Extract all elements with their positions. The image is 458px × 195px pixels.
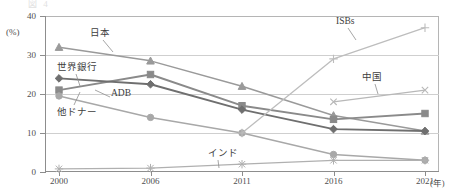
series-label-japan: 日本 (90, 28, 110, 38)
x-axis-tick-label: 2006 (131, 176, 171, 186)
y-axis-tick-label: 20 (8, 90, 36, 99)
series-label-adb: ADB (111, 88, 131, 98)
x-axis-tick-label: 2021 (405, 176, 445, 186)
plot-area (45, 16, 439, 172)
y-axis-tick-label: 0 (8, 168, 36, 177)
data-series-layer (45, 16, 439, 172)
series-インド (55, 156, 429, 173)
series-label-world-bank: 世界銀行 (57, 62, 97, 72)
y-axis-tick (40, 172, 45, 173)
series-label-other-donor: 他ドナー (57, 107, 97, 117)
series-label-india: インド (208, 148, 238, 158)
y-axis-unit: (%) (6, 27, 20, 37)
x-axis-tick-label: 2016 (314, 176, 354, 186)
y-axis-tick-label: 40 (8, 12, 36, 21)
y-axis-tick-label: 30 (8, 51, 36, 60)
x-axis-tick-label: 2000 (39, 176, 79, 186)
series-label-china: 中国 (362, 72, 382, 82)
x-axis-tick (242, 172, 243, 176)
figure-title-cropped: 図 4 (0, 0, 458, 8)
x-axis-tick-label: 2011 (222, 176, 262, 186)
series-中国 (330, 87, 428, 105)
x-axis-tick (334, 172, 335, 176)
chart-figure: 図 4 (%) (年) 403020100 200020062011201620… (0, 0, 458, 195)
y-axis-tick-label: 10 (8, 129, 36, 138)
x-axis-tick (151, 172, 152, 176)
series-label-isbs: ISBs (336, 16, 354, 26)
x-axis-tick (425, 172, 426, 176)
